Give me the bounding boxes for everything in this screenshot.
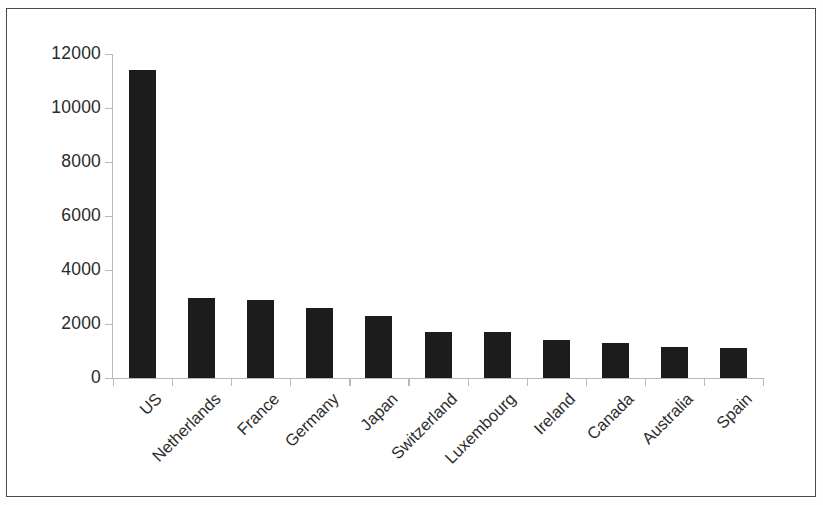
x-tick-5 bbox=[408, 378, 409, 386]
bar-australia bbox=[661, 347, 688, 378]
bar-japan bbox=[365, 316, 392, 378]
y-axis-label-8000: 8000 bbox=[1, 153, 101, 171]
x-axis-label-spain: Spain bbox=[714, 390, 756, 432]
bar-ireland bbox=[543, 340, 570, 378]
x-axis-label-us: US bbox=[136, 390, 164, 418]
x-axis-label-australia: Australia bbox=[639, 390, 696, 447]
y-tick-4000 bbox=[105, 270, 113, 271]
x-tick-4 bbox=[349, 378, 350, 386]
y-tick-0 bbox=[105, 378, 113, 379]
y-axis-label-12000-wrap: 12000 bbox=[0, 45, 101, 63]
y-tick-2000 bbox=[105, 324, 113, 325]
bar-germany bbox=[306, 308, 333, 378]
bar-us bbox=[129, 70, 156, 378]
bar-netherlands bbox=[188, 298, 215, 378]
x-axis-label-france: France bbox=[234, 390, 282, 438]
x-tick-10 bbox=[704, 378, 705, 386]
y-axis-label-4000-wrap: 4000 bbox=[0, 261, 101, 279]
y-tick-8000 bbox=[105, 162, 113, 163]
y-tick-12000 bbox=[105, 54, 113, 55]
x-axis-label-japan: Japan bbox=[357, 390, 400, 433]
bar-france bbox=[247, 300, 274, 378]
x-tick-8 bbox=[586, 378, 587, 386]
x-axis-label-canada: Canada bbox=[584, 390, 637, 443]
x-tick-0 bbox=[113, 378, 114, 386]
x-tick-2 bbox=[231, 378, 232, 386]
x-tick-11 bbox=[763, 378, 764, 386]
x-tick-6 bbox=[468, 378, 469, 386]
chart-page: 12000 10000 8000 6000 4000 2000 0 USNeth… bbox=[0, 0, 823, 505]
y-axis-label-2000-wrap: 2000 bbox=[0, 315, 101, 333]
y-axis-label-6000: 6000 bbox=[1, 207, 101, 225]
y-tick-10000 bbox=[105, 108, 113, 109]
y-axis-label-8000-wrap: 8000 bbox=[0, 153, 101, 171]
x-tick-3 bbox=[290, 378, 291, 386]
y-axis-label-0-wrap: 0 bbox=[0, 369, 101, 387]
y-axis-label-4000: 4000 bbox=[1, 261, 101, 279]
x-axis-label-germany: Germany bbox=[282, 390, 342, 450]
x-tick-9 bbox=[645, 378, 646, 386]
x-tick-1 bbox=[172, 378, 173, 386]
x-axis-label-ireland: Ireland bbox=[530, 390, 577, 437]
bar-spain bbox=[720, 348, 747, 378]
x-axis-line bbox=[112, 378, 763, 379]
y-axis-label-10000-wrap: 10000 bbox=[0, 99, 101, 117]
y-tick-6000 bbox=[105, 216, 113, 217]
bar-switzerland bbox=[425, 332, 452, 378]
bar-canada bbox=[602, 343, 629, 378]
x-tick-7 bbox=[527, 378, 528, 386]
y-axis-label-2000: 2000 bbox=[1, 315, 101, 333]
y-axis-label-12000: 12000 bbox=[1, 45, 101, 63]
y-axis-label-10000: 10000 bbox=[1, 99, 101, 117]
y-axis-label-6000-wrap: 6000 bbox=[0, 207, 101, 225]
y-axis-label-0: 0 bbox=[1, 369, 101, 387]
bar-luxembourg bbox=[484, 332, 511, 378]
plot-area: 12000 10000 8000 6000 4000 2000 0 USNeth… bbox=[0, 0, 823, 505]
